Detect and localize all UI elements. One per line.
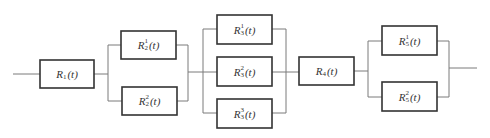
label-r3-3: R33(t) <box>217 99 272 128</box>
wire-r2-out <box>176 45 188 101</box>
label-r2-1: R12(t) <box>121 31 176 59</box>
label-r5-2: R25(t) <box>382 82 437 111</box>
label-r3-2: R23(t) <box>217 57 272 86</box>
wire-r4-r5 <box>354 41 382 97</box>
label-r1: R 1(t) <box>40 60 94 88</box>
wire-r2-r3 <box>188 29 217 113</box>
label-r4: R 4(t) <box>299 57 354 85</box>
label-r2-2: R22(t) <box>122 87 177 115</box>
output-wire <box>437 41 477 97</box>
label-r5-1: R15(t) <box>382 26 437 55</box>
wire-r3-out <box>272 29 299 113</box>
wire-r1-r2 <box>94 45 122 101</box>
label-r3-1: R13(t) <box>217 15 272 44</box>
